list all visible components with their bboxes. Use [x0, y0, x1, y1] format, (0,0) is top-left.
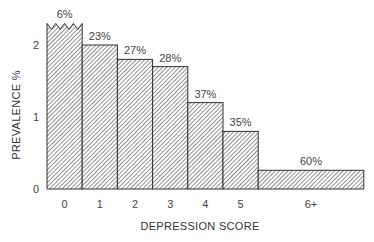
- bar-label-6+: 60%: [300, 155, 322, 167]
- bar-label-5: 35%: [230, 116, 252, 128]
- x-tick-1: 1: [97, 198, 103, 210]
- bar-label-4: 37%: [194, 88, 216, 100]
- bar-3: [153, 67, 188, 189]
- bar-1: [82, 45, 117, 189]
- bar-4: [188, 103, 223, 189]
- bar-2: [117, 59, 152, 189]
- bar-5: [223, 131, 258, 189]
- x-tick-2: 2: [132, 198, 138, 210]
- y-axis-title: PREVALENCE %: [10, 70, 22, 160]
- x-tick-6+: 6+: [305, 198, 318, 210]
- x-tick-3: 3: [167, 198, 173, 210]
- y-tick-0: 0: [33, 183, 39, 195]
- prevalence-bar-chart: 6%23%27%28%37%35%60% 012 0123456+ PREVAL…: [0, 0, 374, 242]
- bar-label-0: 6%: [57, 8, 73, 20]
- y-tick-2: 2: [33, 39, 39, 51]
- x-tick-4: 4: [202, 198, 208, 210]
- bar-label-1: 23%: [89, 30, 111, 42]
- bar-label-2: 27%: [124, 44, 146, 56]
- x-axis-ticks: 0123456+: [62, 198, 318, 210]
- bar-label-3: 28%: [159, 52, 181, 64]
- bar-0: [47, 23, 82, 189]
- x-tick-5: 5: [238, 198, 244, 210]
- bar-6+: [258, 170, 364, 189]
- y-axis-ticks: 012: [33, 39, 39, 195]
- y-tick-1: 1: [33, 111, 39, 123]
- x-axis-title: DEPRESSION SCORE: [140, 220, 259, 232]
- x-tick-0: 0: [62, 198, 68, 210]
